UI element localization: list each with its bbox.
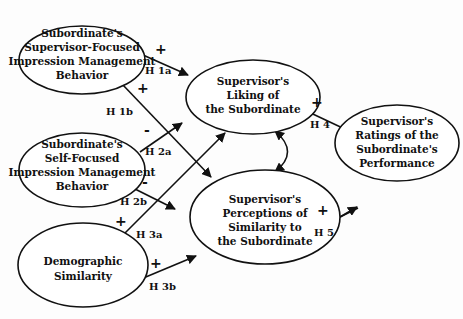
svg-text:Similarity to: Similarity to	[228, 221, 301, 233]
svg-text:Ratings of the: Ratings of the	[355, 129, 439, 141]
svg-text:the Subordinate: the Subordinate	[205, 103, 301, 115]
node-demographic-similarity: Demographic Similarity	[18, 223, 148, 307]
svg-text:the Subordinate: the Subordinate	[217, 235, 313, 247]
svg-text:Impression Management: Impression Management	[9, 166, 156, 178]
label-h4: H 4	[310, 119, 330, 130]
label-h3b: H 3b	[149, 281, 176, 292]
label-h1a: H 1a	[145, 65, 172, 76]
svg-text:Subordinate's: Subordinate's	[41, 27, 123, 39]
svg-text:Supervisor-Focused: Supervisor-Focused	[24, 41, 140, 53]
svg-text:Perceptions of: Perceptions of	[223, 207, 309, 219]
svg-text:Performance: Performance	[359, 157, 435, 169]
svg-text:Subordinate's: Subordinate's	[41, 138, 123, 150]
sign-h2a: -	[144, 122, 150, 138]
sign-h1b: +	[137, 80, 149, 96]
svg-text:Supervisor's: Supervisor's	[229, 193, 302, 205]
node-supervisor-focused-im: Subordinate's Supervisor-Focused Impress…	[9, 26, 156, 94]
svg-text:Supervisor's: Supervisor's	[217, 75, 290, 87]
svg-text:Behavior: Behavior	[56, 69, 109, 81]
svg-text:Impression Management: Impression Management	[9, 55, 156, 67]
label-h1b: H 1b	[106, 106, 133, 117]
svg-text:Behavior: Behavior	[56, 180, 109, 192]
svg-text:Self-Focused: Self-Focused	[45, 152, 120, 164]
sign-h1a: +	[155, 41, 167, 57]
svg-text:Demographic: Demographic	[44, 255, 123, 267]
label-h2a: H 2a	[145, 146, 172, 157]
edge-h5	[340, 207, 358, 217]
node-supervisor-liking: Supervisor's Liking of the Subordinate	[186, 60, 320, 134]
svg-text:Similarity: Similarity	[54, 270, 113, 282]
hypothesized-model-diagram: Subordinate's Supervisor-Focused Impress…	[0, 0, 463, 319]
node-performance-ratings: Supervisor's Ratings of the Subordinate'…	[335, 105, 459, 181]
sign-h2b: -	[142, 174, 148, 190]
sign-h3b: +	[150, 255, 162, 271]
label-h3a: H 3a	[136, 229, 163, 240]
label-h2b: H 2b	[120, 196, 147, 207]
svg-text:Supervisor's: Supervisor's	[361, 115, 434, 127]
svg-text:Liking of: Liking of	[227, 89, 281, 101]
svg-text:Subordinate's: Subordinate's	[356, 143, 438, 155]
sign-h4: +	[311, 94, 323, 110]
sign-h5: +	[317, 202, 329, 218]
label-h5: H 5	[314, 227, 334, 238]
sign-h3a: +	[115, 213, 127, 229]
edge-liking-similarity-covariance	[275, 131, 288, 172]
